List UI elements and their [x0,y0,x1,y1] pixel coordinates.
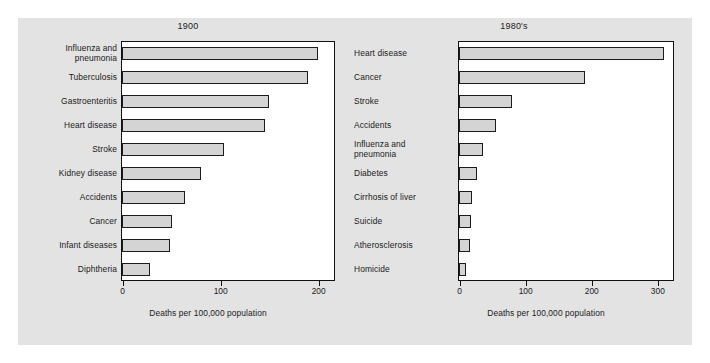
bar[interactable] [122,143,224,156]
chart-1900-x-axis-label: Deaths per 100,000 population [78,308,338,318]
bar-row [459,66,673,90]
chart-1980s-bars [459,42,673,280]
bar-row [122,162,334,186]
bar-row [459,186,673,210]
chart-1900-category-label: Accidents [22,192,117,202]
chart-1980s-title: 1980's [354,21,674,31]
bar[interactable] [459,215,471,228]
chart-1900-bars [122,42,334,280]
bar[interactable] [459,119,496,132]
chart-1900: 1900 Influenza and pneumoniaTuberculosis… [18,18,358,345]
x-axis-tick-label: 100 [519,286,533,296]
chart-1980s-category-label: Accidents [354,120,454,130]
chart-1900-plot-area [121,41,335,281]
chart-1980s: 1980's Heart diseaseCancerStrokeAccident… [354,18,692,345]
bar-row [459,210,673,234]
bar-row [459,90,673,114]
x-axis-tick-label: 300 [651,286,665,296]
bar-row [459,162,673,186]
x-axis-tick-label: 0 [120,286,125,296]
chart-1980s-category-label: Stroke [354,96,454,106]
bar-row [122,210,334,234]
chart-1980s-category-label: Homicide [354,264,454,274]
x-axis-tick-label: 0 [457,286,462,296]
bar[interactable] [122,47,318,60]
bar-row [122,114,334,138]
bar[interactable] [459,167,477,180]
chart-1980s-category-label: Cancer [354,72,454,82]
bar-row [122,258,334,282]
bar-row [122,138,334,162]
chart-1900-category-label: Stroke [22,144,117,154]
bar[interactable] [122,71,308,84]
chart-1980s-category-label: Diabetes [354,168,454,178]
x-axis-tick-label: 200 [585,286,599,296]
bar[interactable] [459,263,466,276]
bar-row [122,66,334,90]
bar-row [459,114,673,138]
bar-row [122,234,334,258]
bar-row [122,186,334,210]
chart-1980s-category-label: Atherosclerosis [354,240,454,250]
bar-row [122,90,334,114]
bar-row [459,234,673,258]
chart-1980s-plot-area [458,41,674,281]
bar-row [459,42,673,66]
bar-row [459,138,673,162]
figure-panel: 1900 Influenza and pneumoniaTuberculosis… [18,18,692,345]
chart-1900-category-label: Heart disease [22,120,117,130]
chart-1900-category-label: Tuberculosis [22,72,117,82]
x-axis-tick-label: 100 [214,286,228,296]
bar-row [459,258,673,282]
bar[interactable] [459,47,664,60]
chart-1900-title: 1900 [18,21,358,31]
chart-1900-category-label: Infant diseases [22,240,117,250]
chart-1900-category-label: Gastroenteritis [22,96,117,106]
chart-1900-category-label: Kidney disease [22,168,117,178]
bar[interactable] [122,95,269,108]
bar[interactable] [122,167,201,180]
bar[interactable] [459,71,585,84]
bar[interactable] [459,95,512,108]
chart-1900-category-label: Diphtheria [22,264,117,274]
bar[interactable] [122,119,265,132]
bar[interactable] [459,143,483,156]
chart-1900-category-label: Influenza and pneumonia [22,43,117,63]
chart-1980s-x-axis-label: Deaths per 100,000 population [416,308,676,318]
x-axis-tick-label: 200 [312,286,326,296]
chart-1980s-category-label: Heart disease [354,48,454,58]
bar[interactable] [122,191,185,204]
bar[interactable] [459,239,470,252]
chart-1900-category-label: Cancer [22,216,117,226]
bar-row [122,42,334,66]
bar[interactable] [122,239,170,252]
bar[interactable] [459,191,472,204]
chart-1980s-category-label: Suicide [354,216,454,226]
bar[interactable] [122,263,150,276]
chart-1980s-category-label: Influenza and pneumonia [354,139,454,159]
bar[interactable] [122,215,172,228]
chart-1980s-category-label: Cirrhosis of liver [354,192,454,202]
